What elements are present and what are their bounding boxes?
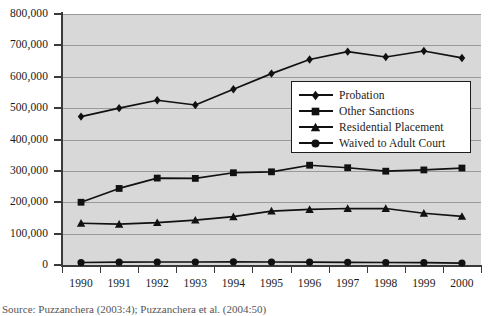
gridline (62, 14, 481, 15)
legend-circle-icon (299, 136, 333, 150)
x-axis-tick (443, 266, 444, 273)
x-axis-tick-label: 1999 (405, 277, 443, 289)
gridline (62, 171, 481, 172)
y-axis-tick (54, 107, 62, 109)
gridline (62, 234, 481, 235)
y-axis-tick (54, 13, 62, 15)
x-axis-line (61, 265, 482, 267)
y-axis-tick-label: 100,000 (10, 228, 48, 240)
x-axis-tick-label: 1991 (100, 277, 138, 289)
legend-item-label: Other Sanctions (333, 105, 414, 118)
legend-item: Other Sanctions (292, 103, 470, 119)
x-axis-tick-label: 1990 (62, 277, 100, 289)
source-caption: Source: Puzzanchera (2003:4); Puzzancher… (2, 303, 482, 316)
y-axis-tick (54, 170, 62, 172)
x-axis-tick (62, 266, 63, 273)
gridline (62, 77, 481, 78)
x-axis-tick (138, 266, 139, 273)
y-axis-tick-label: 600,000 (10, 71, 48, 83)
y-axis-tick (54, 201, 62, 203)
legend-square-icon (299, 104, 333, 118)
y-axis-tick-label: 300,000 (10, 165, 48, 177)
y-axis-tick (54, 233, 62, 235)
legend-item: Residential Placement (292, 119, 470, 135)
x-axis-tick-label: 1993 (176, 277, 214, 289)
legend-item-label: Residential Placement (333, 121, 444, 134)
x-axis-tick (367, 266, 368, 273)
x-axis-tick (176, 266, 177, 273)
y-axis-tick-label: 800,000 (10, 8, 48, 20)
y-axis-tick-label: 700,000 (10, 39, 48, 51)
y-axis-tick (54, 139, 62, 141)
x-axis-tick (214, 266, 215, 273)
x-axis-tick (481, 266, 482, 273)
y-axis-tick (54, 264, 62, 266)
x-axis-tick-label: 2000 (443, 277, 481, 289)
x-axis-tick-label: 1996 (291, 277, 329, 289)
y-axis-tick-label: 0 (42, 259, 48, 271)
y-axis-tick-label: 500,000 (10, 102, 48, 114)
legend-triangle-icon (299, 120, 333, 134)
y-axis-tick-label: 200,000 (10, 196, 48, 208)
x-axis-tick-label: 1997 (329, 277, 367, 289)
legend-item: Probation (292, 87, 470, 103)
x-axis-tick-label: 1998 (367, 277, 405, 289)
legend-item-label: Probation (333, 89, 385, 102)
x-axis-tick (291, 266, 292, 273)
y-axis-tick (54, 44, 62, 46)
legend-item: Waived to Adult Court (292, 135, 470, 151)
x-axis-tick-label: 1994 (214, 277, 252, 289)
x-axis-tick-label: 1992 (138, 277, 176, 289)
legend-diamond-icon (299, 88, 333, 102)
gridline (62, 202, 481, 203)
x-axis-tick-label: 1995 (252, 277, 290, 289)
x-axis-tick (329, 266, 330, 273)
legend-item-label: Waived to Adult Court (333, 137, 445, 150)
x-axis-tick (100, 266, 101, 273)
y-axis-tick-label: 400,000 (10, 134, 48, 146)
y-axis-tick (54, 76, 62, 78)
x-axis-tick (405, 266, 406, 273)
gridline (62, 45, 481, 46)
x-axis-tick (252, 266, 253, 273)
chart-legend: ProbationOther SanctionsResidential Plac… (291, 81, 471, 153)
